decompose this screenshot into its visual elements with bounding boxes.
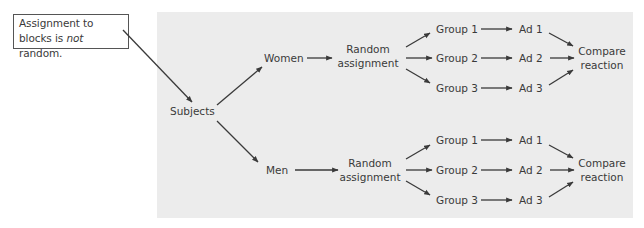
- node-women-group1: Group 1: [436, 22, 478, 36]
- arrow-men-assign-group3: [406, 181, 430, 195]
- node-men-ad1: Ad 1: [519, 133, 543, 147]
- outcome-line2: reaction: [578, 58, 626, 72]
- node-subjects: Subjects: [170, 104, 215, 118]
- arrow-women-ad1-compare: [549, 33, 573, 46]
- node-men-assignment: Random assignment: [339, 156, 400, 184]
- outcome-line2: reaction: [578, 170, 626, 184]
- node-women-compare: Compare reaction: [578, 44, 626, 72]
- arrow-women-ad3-compare: [549, 70, 573, 85]
- assignment-line2: assignment: [339, 170, 400, 184]
- arrow-men-ad3-compare: [549, 182, 573, 197]
- arrow-subjects-to-women: [217, 67, 262, 105]
- node-women-ad3: Ad 3: [519, 81, 543, 95]
- node-men-ad3: Ad 3: [519, 193, 543, 207]
- assignment-line2: assignment: [337, 56, 398, 70]
- arrow-men-ad1-compare: [549, 145, 573, 158]
- callout-connector-line: [123, 30, 192, 102]
- node-men-group1: Group 1: [436, 133, 478, 147]
- outcome-line1: Compare: [578, 44, 626, 58]
- node-women-ad1: Ad 1: [519, 22, 543, 36]
- node-women: Women: [264, 51, 304, 65]
- node-men: Men: [266, 163, 288, 177]
- assignment-line1: Random: [339, 156, 400, 170]
- node-women-group2: Group 2: [436, 51, 478, 65]
- arrow-women-assign-group3: [406, 69, 430, 83]
- arrow-subjects-to-men: [217, 121, 258, 162]
- arrow-layer: [0, 0, 644, 228]
- arrow-men-assign-group1: [406, 145, 430, 159]
- node-men-group2: Group 2: [436, 163, 478, 177]
- node-women-ad2: Ad 2: [519, 51, 543, 65]
- node-men-group3: Group 3: [436, 193, 478, 207]
- arrow-women-assign-group1: [406, 33, 430, 47]
- node-men-compare: Compare reaction: [578, 156, 626, 184]
- outcome-line1: Compare: [578, 156, 626, 170]
- node-men-ad2: Ad 2: [519, 163, 543, 177]
- assignment-line1: Random: [337, 42, 398, 56]
- node-women-group3: Group 3: [436, 81, 478, 95]
- node-women-assignment: Random assignment: [337, 42, 398, 70]
